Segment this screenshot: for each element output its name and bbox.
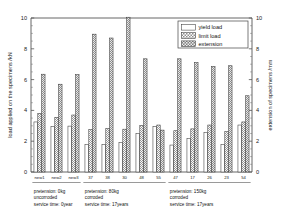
bar-extension-new3 (76, 75, 79, 172)
y-axis-title: load applied on the specimens /kN (7, 52, 13, 138)
left-tick-label-10: 10 (21, 15, 27, 21)
left-tick-label-2: 2 (24, 138, 27, 144)
legend-swatch-limit-load (182, 33, 196, 39)
legend-label-extension: extension (199, 41, 223, 47)
bar-extension-17 (195, 63, 198, 172)
bar-yield-load-new3 (68, 126, 71, 172)
bar-extension-new1 (42, 74, 45, 172)
x-category-label-37: 37 (88, 175, 93, 180)
x-category-label-17: 17 (190, 175, 195, 180)
right-tick-label-0: 0 (256, 169, 259, 175)
bar-extension-55 (161, 130, 164, 172)
legend-label-limit-load: limit load (199, 33, 221, 39)
x-category-label-23: 23 (224, 175, 229, 180)
x-category-label-30: 30 (122, 175, 127, 180)
bar-limit-load-17 (191, 129, 194, 172)
x-category-label-47: 47 (173, 175, 178, 180)
bar-yield-load-47 (170, 145, 173, 172)
bar-limit-load-new2 (55, 117, 58, 172)
right-tick-label-2: 2 (256, 138, 259, 144)
bar-limit-load-23 (225, 132, 228, 172)
group-note-1-line-1: pretension: 0kg (34, 189, 66, 194)
bar-chart-figure: 0246810 0246810 load applied on the spec… (0, 0, 284, 220)
y2-axis-title: extension of specimens /mm (267, 59, 273, 130)
bar-yield-load-new2 (51, 127, 54, 172)
bar-yield-load-new1 (34, 122, 37, 172)
x-category-label-54: 54 (241, 175, 246, 180)
bar-limit-load-new1 (38, 113, 41, 172)
bar-extension-26 (212, 67, 215, 172)
right-tick-label-4: 4 (256, 107, 259, 113)
x-category-label-new3: new3 (68, 175, 79, 180)
bar-limit-load-30 (123, 129, 126, 172)
group-note-2-line-3: service time: 17years (85, 202, 129, 207)
x-category-label-new2: new2 (51, 175, 62, 180)
legend-label-yield-load: yield load (199, 24, 223, 30)
bar-yield-load-30 (119, 142, 122, 172)
x-axis-category-labels: new1new2new337383048554717262354 (34, 175, 246, 180)
bar-limit-load-47 (174, 131, 177, 172)
right-tick-label-8: 8 (256, 46, 259, 52)
bar-limit-load-38 (106, 129, 109, 172)
group-note-2-line-2: corroded (85, 195, 104, 200)
group-annotation-notes: pretension: 0kguncorrodedservice time: 0… (34, 189, 214, 207)
left-tick-label-6: 6 (24, 77, 27, 83)
bar-yield-load-48 (136, 134, 139, 173)
group-note-3-line-3: service time: 17years (170, 202, 214, 207)
right-tick-label-10: 10 (256, 15, 262, 21)
right-tick-label-6: 6 (256, 77, 259, 83)
left-tick-label-0: 0 (24, 169, 27, 175)
bar-extension-47 (178, 59, 181, 172)
x-category-label-new1: new1 (34, 175, 45, 180)
bar-limit-load-37 (89, 130, 92, 172)
bar-yield-load-37 (85, 145, 88, 172)
bar-extension-30 (127, 17, 130, 172)
bar-extension-23 (229, 66, 232, 172)
x-category-label-48: 48 (139, 175, 144, 180)
bar-extension-37 (93, 34, 96, 172)
legend-items: yield loadlimit loadextension (182, 24, 223, 46)
bar-limit-load-55 (157, 125, 160, 172)
bar-yield-load-38 (102, 144, 105, 172)
group-note-3-line-2: corroded (170, 195, 189, 200)
bar-yield-load-54 (238, 125, 241, 172)
group-note-1-line-2: uncorroded (34, 195, 58, 200)
x-category-label-55: 55 (156, 175, 161, 180)
bar-yield-load-55 (153, 127, 156, 172)
bar-yield-load-26 (204, 132, 207, 172)
group-note-2-line-1: pretension: 80kg (85, 189, 119, 194)
bar-limit-load-26 (208, 125, 211, 172)
bar-limit-load-new3 (72, 115, 75, 172)
left-tick-label-8: 8 (24, 46, 27, 52)
bar-limit-load-54 (242, 122, 245, 172)
bar-extension-new2 (59, 84, 62, 172)
x-category-label-26: 26 (207, 175, 212, 180)
bar-yield-load-23 (221, 145, 224, 172)
left-tick-label-4: 4 (24, 107, 27, 113)
x-category-label-38: 38 (105, 175, 110, 180)
legend-swatch-yield-load (182, 25, 196, 31)
legend: yield loadlimit loadextension (178, 21, 248, 48)
bar-extension-54 (246, 96, 249, 172)
bar-extension-48 (144, 59, 147, 172)
bar-extension-38 (110, 38, 113, 172)
group-note-3-line-1: pretension: 150kg (170, 189, 207, 194)
bar-limit-load-48 (140, 125, 143, 172)
group-note-1-line-3: service time: 0year (34, 202, 73, 207)
bar-yield-load-17 (187, 138, 190, 172)
legend-swatch-extension (182, 41, 196, 47)
